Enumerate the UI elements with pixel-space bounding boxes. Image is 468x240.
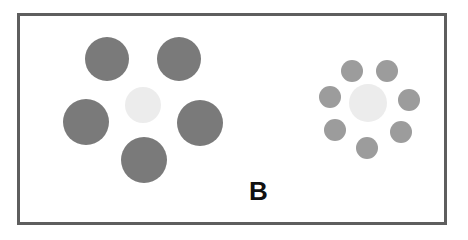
right-surround-circle: [356, 137, 378, 159]
left-surround-circle: [121, 137, 167, 183]
right-surround-circle: [324, 119, 346, 141]
left-center-circle: [125, 87, 161, 123]
panel-label: B: [249, 178, 268, 204]
right-surround-circle: [376, 60, 398, 82]
left-surround-circle: [157, 37, 201, 81]
right-surround-circle: [319, 86, 341, 108]
left-surround-circle: [177, 100, 223, 146]
left-surround-circle: [85, 37, 129, 81]
right-center-circle: [349, 84, 387, 122]
left-surround-circle: [63, 99, 109, 145]
right-surround-circle: [398, 89, 420, 111]
right-surround-circle: [390, 121, 412, 143]
right-surround-circle: [341, 60, 363, 82]
